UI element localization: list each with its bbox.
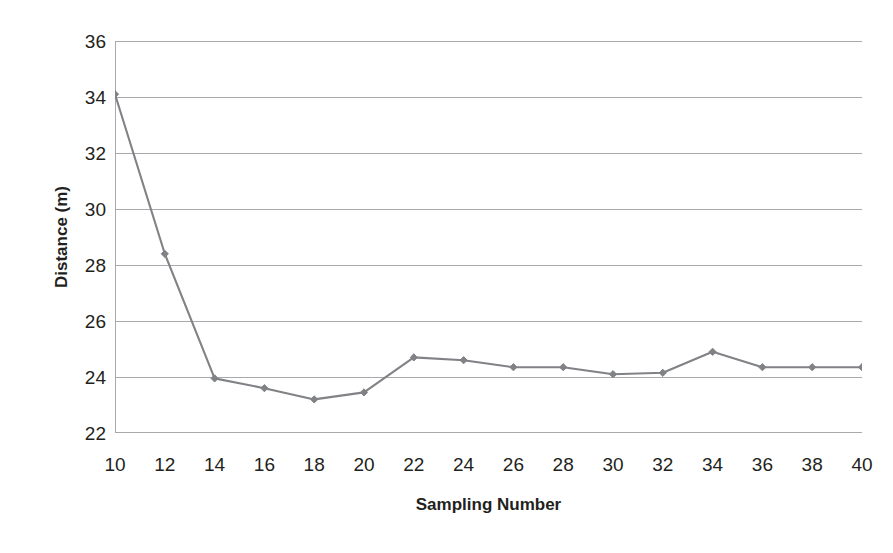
data-point-marker: [858, 364, 862, 371]
axis-tick-marks: [115, 41, 862, 433]
x-tick-label: 18: [304, 455, 325, 474]
y-tick-label: 34: [58, 88, 106, 107]
x-tick-label: 14: [204, 455, 225, 474]
x-tick-label: 34: [702, 455, 723, 474]
x-axis-title: Sampling Number: [115, 495, 862, 515]
series-polyline: [115, 94, 862, 399]
data-point-marker: [759, 364, 766, 371]
plot-svg: [115, 41, 862, 433]
data-series-line: [115, 94, 862, 399]
y-tick-label: 36: [58, 32, 106, 51]
y-tick-label: 32: [58, 144, 106, 163]
data-series-markers: [115, 91, 862, 403]
gridlines: [115, 41, 862, 433]
x-tick-label: 30: [602, 455, 623, 474]
x-tick-label: 32: [652, 455, 673, 474]
data-point-marker: [211, 375, 218, 382]
y-tick-label: 26: [58, 312, 106, 331]
x-tick-label: 38: [802, 455, 823, 474]
data-point-marker: [261, 385, 268, 392]
x-tick-label: 20: [353, 455, 374, 474]
x-tick-label: 26: [503, 455, 524, 474]
x-axis-tick-labels: 10121416182022242628303234363840: [115, 455, 862, 485]
data-point-marker: [311, 396, 318, 403]
x-tick-label: 12: [154, 455, 175, 474]
data-point-marker: [161, 250, 168, 257]
x-tick-label: 22: [403, 455, 424, 474]
y-tick-label: 22: [58, 424, 106, 443]
y-tick-label: 24: [58, 368, 106, 387]
data-point-marker: [560, 364, 567, 371]
x-tick-label: 40: [851, 455, 872, 474]
x-tick-label: 36: [752, 455, 773, 474]
x-tick-label: 16: [254, 455, 275, 474]
x-tick-label: 10: [104, 455, 125, 474]
data-point-marker: [510, 364, 517, 371]
y-tick-label: 28: [58, 256, 106, 275]
y-axis-tick-labels: 2224262830323436: [58, 41, 106, 433]
data-point-marker: [460, 357, 467, 364]
plot-area: [115, 41, 862, 433]
data-point-marker: [659, 369, 666, 376]
axis-lines: [115, 41, 862, 433]
line-chart: Distance (m) 2224262830323436 1012141618…: [0, 0, 893, 553]
x-tick-label: 28: [553, 455, 574, 474]
x-tick-label: 24: [453, 455, 474, 474]
data-point-marker: [809, 364, 816, 371]
data-point-marker: [709, 348, 716, 355]
y-tick-label: 30: [58, 200, 106, 219]
